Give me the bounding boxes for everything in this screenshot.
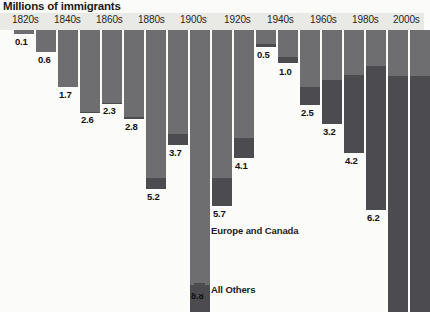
bar-1950s [300, 30, 320, 105]
bar-value-1870s: 2.8 [125, 121, 138, 132]
bar-segment-europe-canada-1970s [344, 30, 364, 75]
decade-label-1900s: 1900s [180, 14, 207, 25]
bar-value-1820s: 0.1 [15, 36, 28, 47]
bar-segment-europe-canada-1840s [58, 30, 78, 87]
bar-1960s [322, 30, 342, 124]
bar-value-1950s: 2.5 [301, 107, 314, 118]
bar-value-1940s: 1.0 [279, 66, 292, 77]
bar-1830s [36, 30, 56, 52]
bar-segment-europe-canada-1900s [190, 30, 210, 285]
bar-1980s [366, 30, 386, 210]
chart-title: Millions of immigrants [3, 0, 121, 12]
bar-value-1850s: 2.6 [81, 114, 94, 125]
legend-swatch-all-others [194, 283, 205, 294]
bar-segment-europe-canada-1830s [36, 30, 56, 52]
bar-value-1920s: 4.1 [235, 160, 248, 171]
decade-label-1860s: 1860s [96, 14, 123, 25]
bar-segment-europe-canada-1850s [80, 30, 100, 112]
bar-segment-europe-canada-1960s [322, 30, 342, 80]
bar-segment-all-others-1860s [102, 103, 122, 104]
bar-value-1960s: 3.2 [323, 126, 336, 137]
decade-label-1940s: 1940s [267, 14, 294, 25]
decade-label-2000s: 2000s [393, 14, 420, 25]
bar-1990s [388, 30, 408, 312]
decade-label-1960s: 1960s [310, 14, 337, 25]
bar-segment-europe-canada-1910s [212, 30, 232, 178]
bar-1890s [168, 30, 188, 145]
bar-2000s [410, 30, 430, 312]
bar-segment-europe-canada-1860s [102, 30, 122, 103]
bar-segment-europe-canada-1880s [146, 30, 166, 178]
bar-segment-europe-canada-1890s [168, 30, 188, 134]
legend-label-all-others: All Others [211, 284, 255, 295]
decade-label-1920s: 1920s [224, 14, 251, 25]
bar-segment-all-others-1880s [146, 178, 166, 189]
legend-label-europe-canada: Europe and Canada [211, 225, 299, 236]
bar-segment-all-others-1980s [366, 66, 386, 210]
bar-1820s [14, 30, 34, 34]
bar-segment-europe-canada-1870s [124, 30, 144, 117]
decade-label-1820s: 1820s [12, 14, 39, 25]
bar-segment-europe-canada-1990s [388, 30, 408, 76]
bar-segment-all-others-1950s [300, 87, 320, 105]
bar-1910s [212, 30, 232, 206]
bar-segment-europe-canada-1920s [234, 30, 254, 138]
bar-1880s [146, 30, 166, 189]
bar-1970s [344, 30, 364, 153]
bar-segment-all-others-1870s [124, 117, 144, 119]
bar-segment-europe-canada-1820s [14, 30, 34, 34]
bar-1940s [278, 30, 298, 63]
bar-segment-all-others-1910s [212, 178, 232, 206]
bar-1840s [58, 30, 78, 87]
plot-area: 0.10.61.72.62.32.85.23.78.85.74.10.51.02… [0, 30, 424, 312]
bar-segment-europe-canada-1930s [256, 30, 276, 44]
bar-1860s [102, 30, 122, 104]
bar-segment-all-others-1960s [322, 80, 342, 124]
bar-value-1860s: 2.3 [103, 105, 116, 116]
bar-segment-europe-canada-1950s [300, 30, 320, 87]
decade-label-1840s: 1840s [54, 14, 81, 25]
legend-swatch-europe-canada [194, 224, 205, 235]
bar-segment-all-others-1930s [256, 44, 276, 47]
decade-label-1980s: 1980s [352, 14, 379, 25]
bar-segment-all-others-1990s [388, 76, 408, 312]
bar-1920s [234, 30, 254, 158]
bar-segment-europe-canada-2000s [410, 30, 430, 76]
bar-segment-europe-canada-1940s [278, 30, 298, 57]
bar-segment-europe-canada-1980s [366, 30, 386, 66]
bar-segment-all-others-1920s [234, 138, 254, 158]
bar-value-1830s: 0.6 [38, 54, 51, 65]
bar-value-1880s: 5.2 [147, 191, 160, 202]
bar-segment-all-others-1940s [278, 57, 298, 63]
bar-segment-all-others-1850s [80, 112, 100, 113]
bar-segment-all-others-1890s [168, 134, 188, 145]
bar-value-1910s: 5.7 [213, 208, 226, 219]
bar-1850s [80, 30, 100, 113]
bar-value-1970s: 4.2 [345, 155, 358, 166]
bar-1900s [190, 30, 210, 312]
bar-value-1840s: 1.7 [59, 89, 72, 100]
bar-value-1930s: 0.5 [257, 49, 270, 60]
bar-segment-all-others-2000s [410, 76, 430, 312]
bar-segment-all-others-1970s [344, 75, 364, 153]
bar-value-1890s: 3.7 [169, 147, 182, 158]
bar-1870s [124, 30, 144, 119]
decade-label-1880s: 1880s [138, 14, 165, 25]
bar-value-1980s: 6.2 [367, 212, 380, 223]
bar-1930s [256, 30, 276, 47]
